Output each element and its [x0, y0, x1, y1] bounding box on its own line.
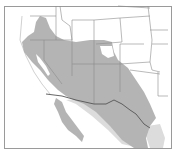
range-map — [0, 0, 179, 155]
